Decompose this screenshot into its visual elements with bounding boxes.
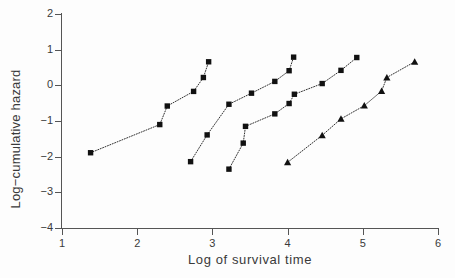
plot-data-layer [0,0,455,278]
data-point-marker [206,59,211,64]
data-point-marker [284,159,291,166]
data-point-marker [272,111,277,116]
data-point-marker [191,89,196,94]
data-point-marker [272,79,277,84]
chart-series [226,55,359,172]
data-point-marker [338,68,343,73]
series-line [229,58,357,170]
series-line [288,62,415,163]
data-point-marker [157,122,162,127]
data-point-marker [286,68,291,73]
chart-series [188,54,296,164]
data-point-marker [243,124,248,129]
data-point-marker [226,166,231,171]
data-point-marker [292,92,297,97]
chart-series [284,58,418,165]
data-point-marker [286,101,291,106]
data-point-marker [319,81,324,86]
data-point-marker [411,58,418,65]
chart-series [88,59,211,155]
data-point-marker [88,150,93,155]
data-point-marker [226,102,231,107]
data-point-marker [204,132,209,137]
data-point-marker [188,159,193,164]
data-point-marker [241,140,246,145]
data-point-marker [378,87,385,94]
data-point-marker [201,75,206,80]
series-line [91,62,209,153]
data-point-marker [383,74,390,81]
data-point-marker [354,55,359,60]
data-point-marker [337,115,344,122]
chart-figure: Log−cumulative hazard Log of survival ti… [0,0,455,278]
data-point-marker [249,90,254,95]
data-point-marker [291,54,296,59]
data-point-marker [165,103,170,108]
